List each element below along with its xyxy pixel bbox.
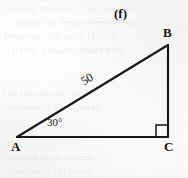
triangle-outline	[17, 45, 168, 137]
figure-panel: the vast majority of the questions solut…	[0, 0, 188, 178]
vertex-label-b: B	[163, 26, 172, 39]
vertex-label-c: C	[164, 140, 173, 153]
right-angle-marker	[156, 125, 168, 137]
panel-letter-label: (f)	[114, 7, 127, 20]
segment-a-b-hypotenuse	[17, 45, 168, 137]
angle-label-a: 30°	[47, 117, 62, 128]
vertex-label-a: A	[11, 140, 20, 153]
triangle-diagram	[0, 0, 188, 178]
